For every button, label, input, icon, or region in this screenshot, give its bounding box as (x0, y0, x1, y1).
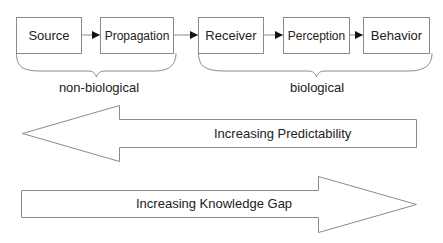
arrow-label-knowledge-gap: Increasing Knowledge Gap (136, 196, 292, 211)
brace-biological-icon (199, 53, 433, 77)
group-label-biological: biological (290, 80, 344, 95)
stage-label-propagation: Propagation (100, 17, 174, 54)
stage-label-behavior: Behavior (363, 17, 430, 54)
brace-non-biological-icon (17, 53, 177, 77)
stage-label-perception: Perception (283, 17, 350, 54)
stage-label-source: Source (16, 17, 82, 54)
arrow-label-predictability: Increasing Predictability (214, 126, 351, 141)
group-label-non-biological: non-biological (59, 80, 139, 95)
stage-label-receiver: Receiver (198, 17, 264, 54)
